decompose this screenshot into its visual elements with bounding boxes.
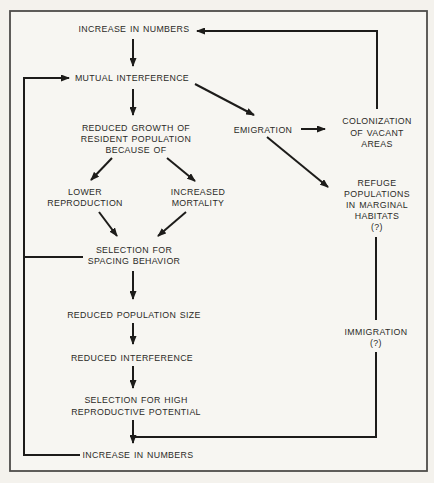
- node-lower-reproduction-line2: REPRODUCTION: [47, 198, 123, 208]
- node-refuge-line2: POPULATIONS: [344, 189, 410, 199]
- node-colonization-line1: COLONIZATION: [342, 116, 412, 126]
- node-emigration: EMIGRATION: [234, 125, 293, 135]
- node-increased-mortality-line2: MORTALITY: [172, 198, 225, 208]
- diagram-border: [10, 11, 427, 471]
- flow-diagram: INCREASE IN NUMBERS MUTUAL INTERFERENCE …: [0, 0, 434, 483]
- node-selection-high-line1: SELECTION FOR HIGH: [84, 395, 187, 405]
- node-reduced-population: REDUCED POPULATION SIZE: [67, 310, 201, 320]
- node-increase-top: INCREASE IN NUMBERS: [79, 24, 190, 34]
- node-colonization-line3: AREAS: [361, 139, 393, 149]
- node-selection-spacing-line2: SPACING BEHAVIOR: [88, 256, 181, 266]
- node-refuge-line5: (?): [371, 222, 383, 232]
- node-reduced-interference: REDUCED INTERFERENCE: [71, 353, 193, 363]
- node-reduced-growth-line1: REDUCED GROWTH OF: [82, 123, 190, 133]
- node-immigration-line2: (?): [370, 338, 382, 348]
- node-selection-spacing-line1: SELECTION FOR: [96, 245, 172, 255]
- node-refuge-line3: IN MARGINAL: [346, 200, 408, 210]
- node-reduced-growth-line2: RESIDENT POPULATION: [81, 134, 191, 144]
- scanned-figure: INCREASE IN NUMBERS MUTUAL INTERFERENCE …: [0, 0, 434, 483]
- node-increased-mortality-line1: INCREASED: [171, 187, 225, 197]
- node-reduced-growth-line3: BECAUSE OF: [105, 145, 166, 155]
- node-refuge-line4: HABITATS: [355, 211, 400, 221]
- node-selection-high-line2: REPRODUCTIVE POTENTIAL: [71, 407, 201, 417]
- node-refuge-line1: REFUGE: [358, 178, 397, 188]
- node-colonization-line2: OF VACANT: [350, 128, 404, 138]
- node-increase-bottom: INCREASE IN NUMBERS: [83, 450, 194, 460]
- node-lower-reproduction-line1: LOWER: [68, 187, 102, 197]
- node-immigration-line1: IMMIGRATION: [345, 327, 408, 337]
- node-mutual-interference: MUTUAL INTERFERENCE: [75, 73, 189, 83]
